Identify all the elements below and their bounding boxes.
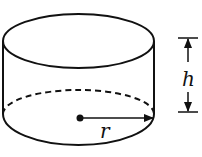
cylinder-top-ellipse	[3, 14, 154, 68]
radius-label: r	[100, 119, 111, 143]
cylinder-diagram: r h	[0, 0, 202, 157]
cylinder-bottom-back-dashed	[3, 90, 154, 114]
center-point	[77, 115, 84, 122]
height-label: h	[182, 67, 195, 91]
